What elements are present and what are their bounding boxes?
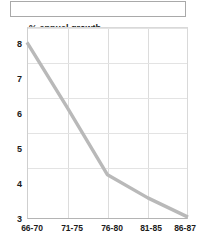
line-chart: % annual growth 8 7 6 5 4 3 66-70 71-75 … xyxy=(0,22,197,245)
series-line-layer xyxy=(0,22,197,245)
top-empty-panel xyxy=(10,1,186,17)
series-line-annual-growth xyxy=(27,42,188,217)
